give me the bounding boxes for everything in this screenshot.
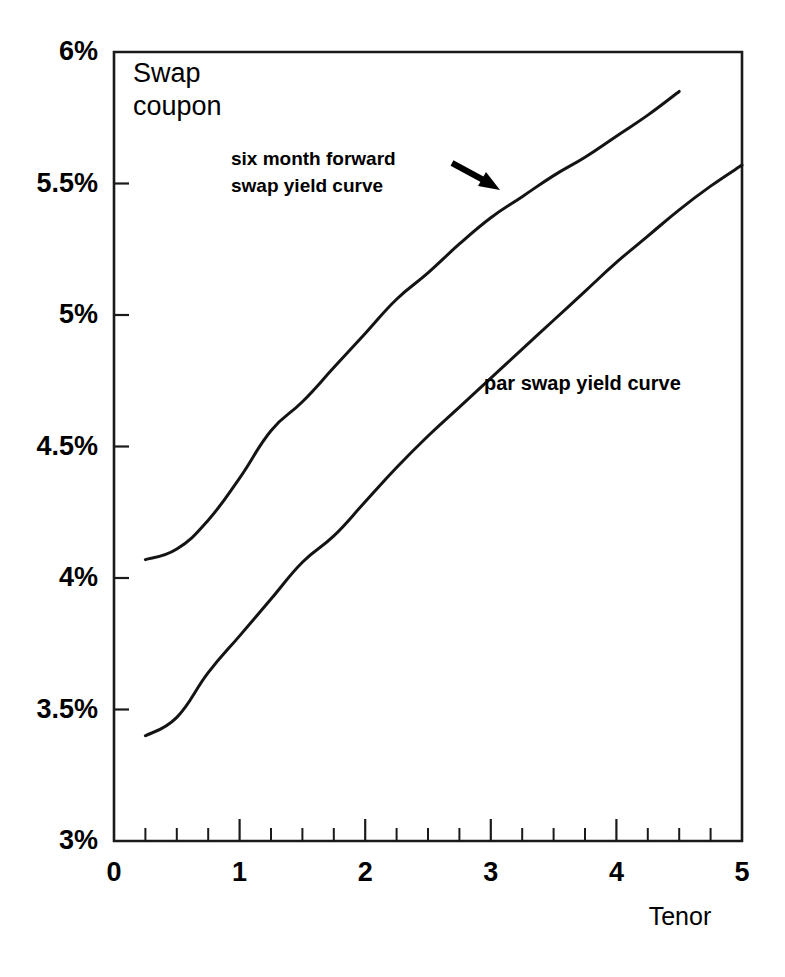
forward-annotation-line-2: swap yield curve <box>231 175 383 196</box>
x-axis-tick-label: 0 <box>106 857 121 887</box>
x-axis-tick-label: 5 <box>734 857 749 887</box>
y-axis-tick-label: 5% <box>59 299 98 329</box>
x-axis-title: Tenor <box>649 902 712 930</box>
x-axis-tick-label: 1 <box>232 857 247 887</box>
x-axis-tick-label: 2 <box>358 857 373 887</box>
swap-yield-curve-chart: 3%3.5%4%4.5%5%5.5%6% 012345 Swap coupon … <box>0 0 785 977</box>
y-axis-tick-label: 4% <box>59 562 98 592</box>
chart-background <box>0 0 785 977</box>
y-axis-tick-label: 3.5% <box>36 694 98 724</box>
plot-title-line-1: Swap <box>133 58 201 88</box>
plot-title-line-2: coupon <box>133 91 222 121</box>
chart-figure: 3%3.5%4%4.5%5%5.5%6% 012345 Swap coupon … <box>0 0 785 977</box>
y-axis-tick-label: 3% <box>59 825 98 855</box>
x-axis-tick-label: 3 <box>483 857 498 887</box>
y-axis-tick-label: 5.5% <box>36 168 98 198</box>
x-axis-tick-label: 4 <box>609 857 624 887</box>
y-axis-tick-label: 6% <box>59 36 98 66</box>
par-annotation-label: par swap yield curve <box>484 372 681 394</box>
y-axis-tick-label: 4.5% <box>36 431 98 461</box>
forward-annotation-line-1: six month forward <box>231 148 396 169</box>
